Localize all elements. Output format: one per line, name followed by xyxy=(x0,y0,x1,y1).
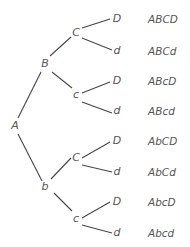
outcome-1: ABCD xyxy=(148,13,178,25)
outcome-8: Abcd xyxy=(148,227,174,239)
leaf-D-1: D xyxy=(113,13,121,25)
outcome-2: ABCd xyxy=(148,45,176,57)
leaf-D-3: D xyxy=(113,135,121,147)
node-B: B xyxy=(41,58,49,70)
node-A: A xyxy=(11,120,19,132)
leaf-d-4: d xyxy=(114,227,121,239)
tree-edges xyxy=(0,0,190,247)
outcome-5: AbCD xyxy=(148,135,177,147)
leaf-D-4: D xyxy=(113,196,121,208)
node-c-1: c xyxy=(73,89,79,101)
leaf-d-1: d xyxy=(114,45,121,57)
outcome-7: AbcD xyxy=(148,196,176,208)
node-b: b xyxy=(42,181,49,193)
outcome-3: ABcD xyxy=(148,75,176,87)
leaf-d-3: d xyxy=(114,166,121,178)
leaf-D-2: D xyxy=(113,75,121,87)
outcome-4: ABcd xyxy=(148,105,175,117)
node-C-1: C xyxy=(72,27,80,39)
leaf-d-2: d xyxy=(114,105,121,117)
node-C-2: C xyxy=(72,152,80,164)
outcome-6: AbCd xyxy=(148,166,176,178)
node-c-2: c xyxy=(73,213,79,225)
